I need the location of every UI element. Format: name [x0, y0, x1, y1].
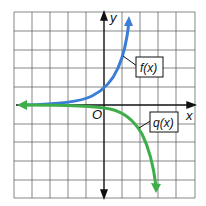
f-label: f(x)	[140, 61, 157, 75]
q-left-arrow-icon	[17, 100, 27, 110]
q-label-callout: q(x)	[139, 112, 178, 132]
origin-label: O	[92, 107, 102, 122]
graph: y x O f(x) q(x)	[0, 0, 206, 206]
q-down-arrow-icon	[151, 183, 161, 193]
q-curve	[24, 105, 156, 186]
x-axis-label: x	[185, 108, 193, 123]
f-label-callout: f(x)	[123, 56, 163, 77]
f-curve	[22, 22, 129, 105]
f-arrow-icon	[124, 16, 133, 26]
q-label: q(x)	[153, 116, 174, 130]
